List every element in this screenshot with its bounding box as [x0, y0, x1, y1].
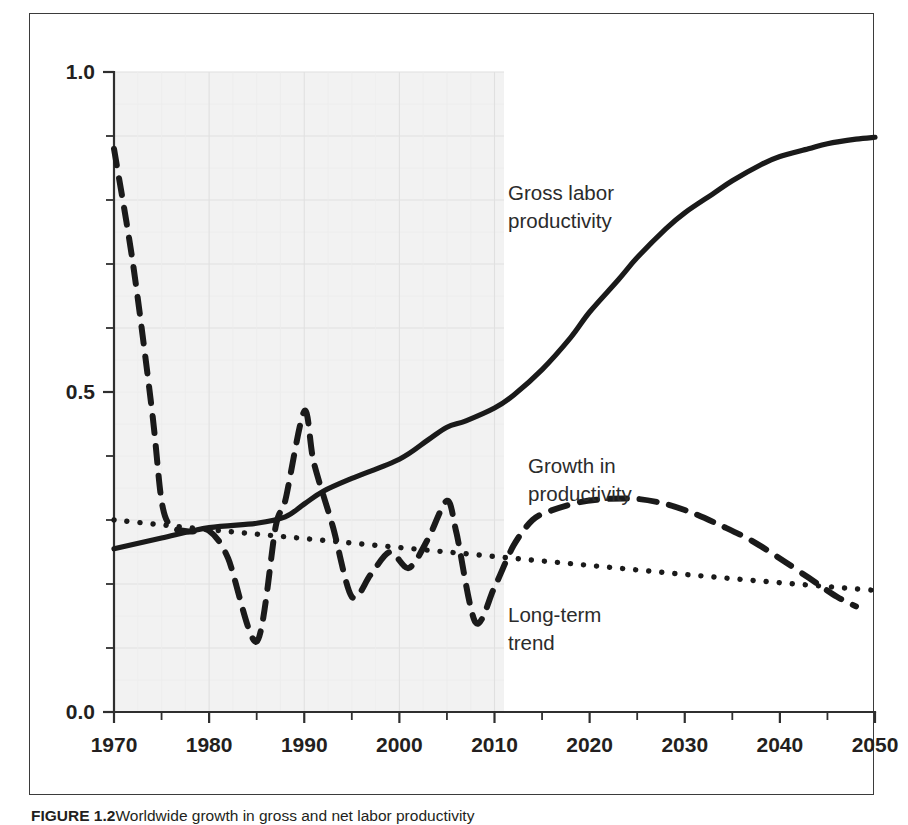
- x-tick-label: 2020: [566, 733, 613, 756]
- annotation-gross-line2: productivity: [508, 209, 612, 232]
- x-tick-label: 2000: [376, 733, 423, 756]
- x-tick-label: 1970: [91, 733, 138, 756]
- x-tick-label: 2030: [661, 733, 708, 756]
- y-tick-label: 1.0: [66, 60, 95, 83]
- x-tick-label: 2010: [471, 733, 518, 756]
- annotation-trend-line1: Long-term: [508, 603, 601, 626]
- x-tick-label: 1990: [281, 733, 328, 756]
- x-tick-label: 2040: [757, 733, 804, 756]
- annotation-gross-line1: Gross labor: [508, 181, 614, 204]
- figure-caption: FIGURE 1.2Worldwide growth in gross and …: [31, 806, 891, 825]
- annotation-growth-line2: productivity: [528, 482, 632, 505]
- y-tick-label: 0.0: [66, 700, 95, 723]
- chart-series-annotations: Gross labor productivity Growth in produ…: [508, 181, 632, 654]
- figure-caption-text: Worldwide growth in gross and net labor …: [115, 807, 474, 824]
- chart-gridlines: [114, 72, 504, 712]
- x-tick-label: 1980: [186, 733, 233, 756]
- x-tick-label: 2050: [852, 733, 899, 756]
- figure-caption-label: FIGURE 1.2: [31, 807, 115, 824]
- annotation-trend-line2: trend: [508, 631, 555, 654]
- y-tick-label: 0.5: [66, 380, 96, 403]
- annotation-growth-line1: Growth in: [528, 454, 616, 477]
